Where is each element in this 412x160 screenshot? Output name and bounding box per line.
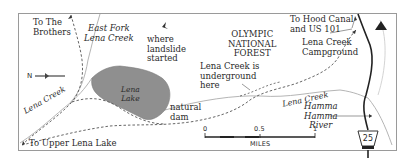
road-25 [358,14,372,130]
landslide-marker [162,22,168,29]
label-olympic-national-forest: OLYMPICNATIONALFOREST [228,30,276,59]
scale-unit: MILES [250,140,270,150]
scale-tick-1: 1 [313,125,317,135]
label-lena-lake: LenaLake [121,86,140,103]
scale-tick-half: 0.5 [254,125,265,135]
label-lena-creek-campground: Lena CreekCampground [302,38,358,57]
compass-north-label: N [27,72,32,82]
campground-icon [375,21,387,30]
label-natural-dam: naturaldam [170,103,201,122]
trail-to-brothers [71,15,83,102]
route-number: 25 [361,134,375,144]
label-landslide: wherelandslidestarted [147,35,186,64]
lena-lake-map: To TheBrothers East ForkLena Creek where… [0,0,412,160]
label-creek-underground: Lena Creek isundergroundhere [200,62,259,91]
scale-tick-0: 0 [203,125,207,135]
label-to-upper-lena-lake: To Upper Lena Lake [29,139,116,149]
label-hamma-hamma-river: HammaHammaRiver [304,102,338,131]
label-east-fork-lena-creek: East ForkLena Creek [84,24,134,43]
label-to-hood-canal: To Hood Canaland US 101 [290,15,353,34]
label-to-the-brothers: To TheBrothers [33,18,71,37]
